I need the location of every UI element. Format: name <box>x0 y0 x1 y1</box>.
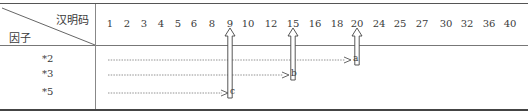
arrow-label-a: a <box>353 53 358 63</box>
arrow-label-b: b <box>291 68 297 78</box>
arrow-overlay <box>0 0 528 112</box>
arrow-label-c: c <box>230 86 235 96</box>
